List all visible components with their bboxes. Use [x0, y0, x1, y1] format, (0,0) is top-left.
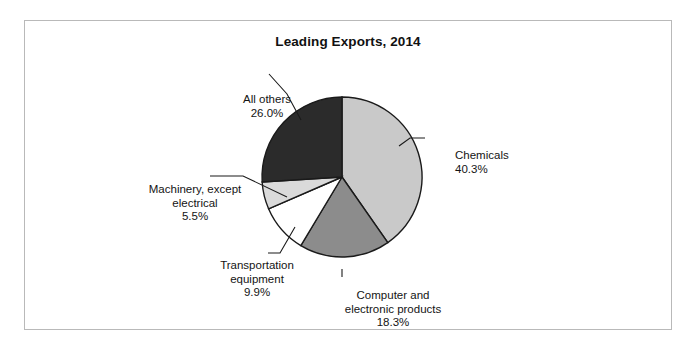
pie-label-transportation-line2: equipment — [203, 273, 311, 287]
pie-label-computer-percent: 18.3% — [325, 316, 461, 330]
pie-label-machinery-line1: Machinery, except — [149, 183, 241, 195]
pie-label-transportation-percent: 9.9% — [203, 286, 311, 300]
pie-label-machinery-percent: 5.5% — [131, 210, 259, 224]
chart-page: Leading Exports, 2014 All others 26.0 — [0, 0, 696, 352]
pie-label-all-others-percent: 26.0% — [213, 107, 321, 121]
pie-label-chemicals: Chemicals 40.3% — [455, 149, 575, 176]
pie-label-machinery-except-electrical: Machinery, except electrical 5.5% — [131, 183, 259, 224]
pie-label-chemicals-name: Chemicals — [455, 149, 509, 161]
pie-label-transportation-line1: Transportation — [220, 259, 294, 271]
pie-label-chemicals-percent: 40.3% — [455, 163, 575, 177]
pie-label-all-others: All others 26.0% — [213, 93, 321, 120]
pie-label-computer-electronic-products: Computer and electronic products 18.3% — [325, 289, 461, 330]
pie-chart-graphic — [25, 21, 673, 329]
pie-label-computer-line2: electronic products — [325, 303, 461, 317]
pie-label-machinery-line2: electrical — [131, 197, 259, 211]
pie-label-all-others-name: All others — [243, 93, 291, 105]
pie-label-transportation-equipment: Transportation equipment 9.9% — [203, 259, 311, 300]
chart-frame: Leading Exports, 2014 All others 26.0 — [24, 20, 672, 330]
pie-label-computer-line1: Computer and — [357, 289, 430, 301]
